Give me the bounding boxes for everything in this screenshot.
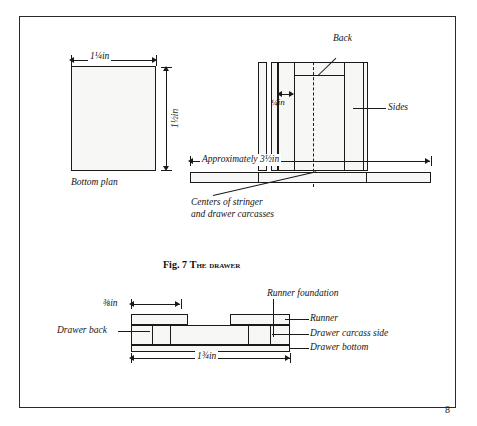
- bottom-plan-height-label: 1½in: [170, 109, 180, 128]
- section-divider-2: [170, 325, 171, 345]
- section-divider-4: [270, 325, 271, 345]
- carcass-side-leader-line: [272, 334, 309, 335]
- section-right-runner-block: [230, 314, 290, 325]
- runner-label: Runner: [310, 313, 338, 325]
- section-divider-3: [248, 325, 249, 345]
- runner-leader-line: [285, 319, 309, 320]
- quarter-dim-label: ¼in: [271, 97, 285, 108]
- section-overall-dim-tick-right: [290, 353, 291, 363]
- elevation-drawer-left-side-line: [294, 62, 295, 171]
- carcass-side-label: Drawer carcass side: [310, 328, 388, 340]
- bottom-plan-width-dimline: [71, 60, 157, 61]
- overall-dim-label: Approximately 3½in: [200, 154, 281, 166]
- sides-label: Sides: [388, 102, 408, 114]
- bottom-plan-width-label: 1¼in: [88, 51, 111, 63]
- section-small-dim-line: [131, 304, 180, 305]
- figure-caption-title: The drawer: [189, 259, 240, 270]
- bottom-plan-square: [71, 66, 156, 171]
- elevation-center-dashed-line: [313, 62, 314, 187]
- section-small-dim-tick-right: [181, 299, 182, 309]
- stringer-divider-right: [366, 172, 367, 183]
- figure-page: 1¼in 1½in Bottom plan ¼in: [0, 0, 477, 426]
- quarter-dim-arrow-right: [289, 91, 294, 97]
- centers-note-line1: Centers of stringer: [191, 197, 263, 209]
- sides-leader-line: [353, 108, 386, 109]
- bottom-plan-height-tick-top: [161, 67, 172, 68]
- section-small-dim-label: ⅜in: [103, 298, 118, 310]
- section-divider-1: [152, 325, 153, 345]
- drawer-bottom-label: Drawer bottom: [310, 342, 368, 354]
- bottom-plan-height-tick-bottom: [161, 170, 172, 171]
- runner-foundation-leader-line: [273, 299, 274, 337]
- drawer-bottom-leader-line: [290, 348, 309, 349]
- bottom-plan-caption: Bottom plan: [71, 177, 118, 189]
- drawer-back-label: Drawer back: [57, 325, 107, 337]
- overall-dim-tick-left: [190, 156, 191, 166]
- section-left-raised-block: [131, 314, 188, 325]
- bottom-plan-width-tick-right: [156, 55, 157, 66]
- overall-dim-arrow-right: [425, 158, 430, 164]
- section-main-body: [131, 325, 290, 345]
- bottom-plan-width-tick-left: [71, 55, 72, 66]
- section-small-dim-arrow-right: [175, 301, 180, 307]
- stringer-divider-left: [258, 172, 259, 183]
- bottom-plan-height-dimline: [166, 68, 167, 169]
- stringer-base-board: [190, 172, 431, 183]
- section-overall-dim-label: 1¾in: [195, 351, 218, 363]
- runner-foundation-label: Runner foundation: [267, 288, 339, 300]
- figure-caption: Fig. 7 The drawer: [163, 259, 240, 270]
- drawer-back-leader-line: [118, 331, 150, 332]
- overall-dim-tick-right: [431, 156, 432, 166]
- section-overall-dim-tick-left: [131, 353, 132, 363]
- back-label: Back: [333, 33, 352, 45]
- figure-caption-prefix: Fig. 7: [163, 259, 189, 270]
- elevation-right-side-panel: [344, 62, 364, 171]
- page-number: 8: [445, 404, 450, 415]
- centers-note-line2: and drawer carcasses: [191, 209, 274, 221]
- section-small-dim-tick-left: [131, 299, 132, 309]
